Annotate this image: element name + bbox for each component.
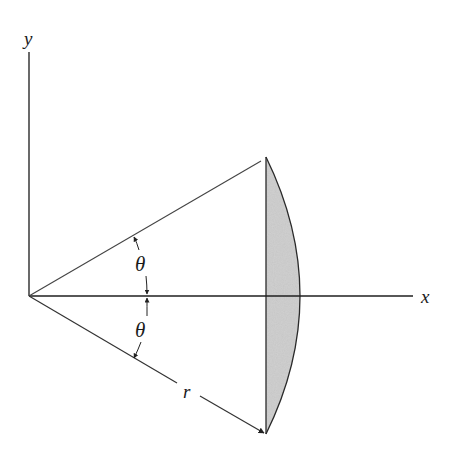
circular-segment-diagram: y x θ θ r: [0, 0, 454, 462]
upper-angle-arc-top: [134, 237, 139, 250]
x-axis-label: x: [420, 286, 430, 307]
lower-radius-line-a: [29, 296, 177, 383]
theta-lower-label: θ: [135, 318, 145, 342]
radius-label: r: [183, 381, 191, 402]
upper-angle-arc-bottom: [146, 276, 147, 294]
theta-upper-label: θ: [135, 252, 145, 276]
lower-radius-line-b: [200, 396, 264, 433]
y-axis-label: y: [22, 28, 33, 49]
lower-angle-arc-bottom: [134, 342, 141, 358]
